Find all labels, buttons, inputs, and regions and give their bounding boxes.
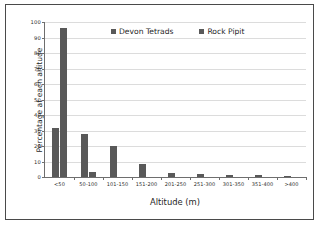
- x-axis-tick: [74, 177, 75, 180]
- y-axis-tick-label: 20: [34, 143, 41, 149]
- chart-frame: Devon Tetrads Rock Pipit Percentage at e…: [5, 4, 314, 220]
- bar-group: 251-300: [190, 22, 219, 177]
- x-axis-tick-label: 50-100: [79, 181, 97, 187]
- x-axis-tick-label: 201-250: [165, 181, 187, 187]
- y-axis-tick-label: 90: [34, 35, 41, 41]
- bar: [110, 146, 117, 177]
- bar-group: 201-250: [161, 22, 190, 177]
- bar-group: 151-200: [132, 22, 161, 177]
- x-axis-tick: [103, 177, 104, 180]
- y-axis-tick-label: 70: [34, 66, 41, 72]
- y-axis-title-container: Percentage at each altitude: [20, 22, 32, 178]
- bar-group: 101-150: [103, 22, 132, 177]
- bar: [197, 174, 204, 177]
- x-axis-tick: [277, 177, 278, 180]
- y-axis-tick-label: 40: [34, 112, 41, 118]
- y-axis-tick-label: 60: [34, 81, 41, 87]
- x-axis-tick-label: 251-300: [194, 181, 216, 187]
- y-axis-tick: [42, 177, 45, 178]
- bar: [81, 134, 88, 177]
- bar: [139, 164, 146, 177]
- y-axis-tick-label: 80: [34, 50, 41, 56]
- x-axis-tick: [306, 177, 307, 180]
- bar-group: 50-100: [74, 22, 103, 177]
- x-axis-tick: [132, 177, 133, 180]
- bar: [226, 175, 233, 177]
- bar: [284, 176, 291, 177]
- bar-group: >400: [277, 22, 306, 177]
- y-axis-tick-label: 100: [30, 19, 41, 25]
- y-axis-tick-label: 0: [37, 174, 41, 180]
- bar-group: <50: [45, 22, 74, 177]
- bar: [52, 128, 59, 177]
- x-axis-tick-label: 301-350: [223, 181, 245, 187]
- bar: [60, 28, 67, 177]
- x-axis-tick-label: 351-400: [252, 181, 274, 187]
- y-axis-tick-label: 30: [34, 128, 41, 134]
- x-axis-tick: [248, 177, 249, 180]
- x-axis-tick-label: <50: [54, 181, 65, 187]
- bar-group: 301-350: [219, 22, 248, 177]
- y-axis-tick-label: 50: [34, 97, 41, 103]
- x-axis-title: Altitude (m): [44, 197, 306, 207]
- bar-group: 351-400: [248, 22, 277, 177]
- bar: [168, 173, 175, 177]
- y-axis-tick-label: 10: [34, 159, 41, 165]
- x-axis-tick-label: 151-200: [136, 181, 158, 187]
- x-axis-tick: [190, 177, 191, 180]
- bar: [89, 172, 96, 177]
- chart-screenshot: Devon Tetrads Rock Pipit Percentage at e…: [0, 0, 320, 226]
- x-axis-tick-label: 101-150: [107, 181, 129, 187]
- bar: [255, 175, 262, 177]
- plot-area: 0102030405060708090100<5050-100101-15015…: [44, 22, 306, 178]
- x-axis-tick: [219, 177, 220, 180]
- x-axis-tick-label: >400: [284, 181, 298, 187]
- x-axis-tick: [161, 177, 162, 180]
